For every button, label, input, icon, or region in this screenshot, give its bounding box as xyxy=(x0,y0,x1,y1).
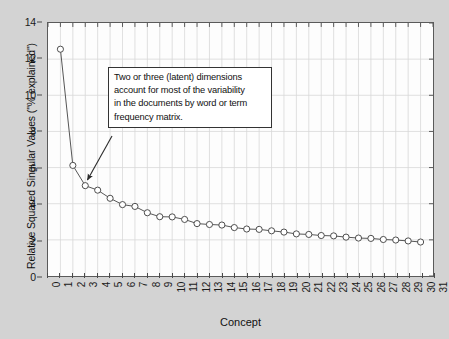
x-tick-label-17: 17 xyxy=(263,282,274,293)
x-tick-mark-20 xyxy=(297,273,298,278)
y-tick-mark-12 xyxy=(37,58,42,59)
x-tick-mark-10 xyxy=(172,273,173,278)
x-tick-mark-17 xyxy=(259,273,260,278)
x-tick-mark-18 xyxy=(272,273,273,278)
y-tick-mark-6 xyxy=(37,167,42,168)
x-tick-label-31: 31 xyxy=(438,282,449,293)
x-tick-label-12: 12 xyxy=(201,282,212,293)
data-point-marker xyxy=(132,203,138,209)
data-point-marker xyxy=(182,216,188,222)
x-tick-label-18: 18 xyxy=(276,282,287,293)
x-tick-label-9: 9 xyxy=(163,282,174,287)
annotation-textbox: Two or three (latent) dimensions account… xyxy=(108,67,272,128)
y-tick-mark-8 xyxy=(37,131,42,132)
data-point-marker xyxy=(256,226,262,232)
x-tick-mark-13 xyxy=(209,273,210,278)
x-tick-mark-1 xyxy=(59,273,60,278)
y-tick-mark-14 xyxy=(37,22,42,23)
x-tick-label-13: 13 xyxy=(213,282,224,293)
data-point-marker xyxy=(206,221,212,227)
annotation-line-2: account for most of the variability xyxy=(114,84,267,97)
data-point-marker xyxy=(57,46,63,52)
x-tick-mark-6 xyxy=(122,273,123,278)
plot-area xyxy=(47,22,434,277)
x-tick-label-16: 16 xyxy=(251,282,262,293)
x-tick-label-8: 8 xyxy=(151,282,162,287)
x-tick-mark-3 xyxy=(84,273,85,278)
x-tick-label-11: 11 xyxy=(188,282,199,292)
data-point-marker xyxy=(343,234,349,240)
x-tick-mark-0 xyxy=(47,273,48,278)
x-tick-mark-19 xyxy=(284,273,285,278)
data-point-marker xyxy=(418,239,424,245)
x-tick-mark-2 xyxy=(72,273,73,278)
x-tick-label-6: 6 xyxy=(126,282,137,287)
x-tick-label-3: 3 xyxy=(88,282,99,287)
x-tick-mark-5 xyxy=(109,273,110,278)
x-tick-label-29: 29 xyxy=(413,282,424,293)
data-point-marker xyxy=(95,187,101,193)
x-axis-title: Concept xyxy=(47,316,434,328)
x-tick-mark-26 xyxy=(372,273,373,278)
x-tick-label-26: 26 xyxy=(376,282,387,293)
x-tick-mark-4 xyxy=(97,273,98,278)
data-point-marker xyxy=(82,183,88,189)
x-tick-label-15: 15 xyxy=(238,282,249,293)
data-point-marker xyxy=(331,233,337,239)
x-tick-label-0: 0 xyxy=(51,282,62,287)
x-tick-mark-14 xyxy=(222,273,223,278)
x-tick-mark-31 xyxy=(434,273,435,278)
x-tick-label-21: 21 xyxy=(313,282,324,293)
data-point-marker xyxy=(244,226,250,232)
x-tick-mark-22 xyxy=(322,273,323,278)
x-tick-mark-12 xyxy=(197,273,198,278)
x-tick-label-10: 10 xyxy=(176,282,187,293)
x-tick-label-28: 28 xyxy=(401,282,412,293)
x-tick-label-30: 30 xyxy=(426,282,437,293)
x-tick-mark-8 xyxy=(147,273,148,278)
x-tick-mark-7 xyxy=(134,273,135,278)
x-tick-label-7: 7 xyxy=(138,282,149,287)
data-point-marker xyxy=(306,231,312,237)
data-point-marker xyxy=(318,232,324,238)
y-tick-mark-0 xyxy=(37,277,42,278)
data-point-marker xyxy=(219,222,225,228)
x-tick-label-5: 5 xyxy=(113,282,124,287)
x-tick-label-4: 4 xyxy=(101,282,112,287)
x-tick-label-22: 22 xyxy=(326,282,337,293)
x-tick-mark-23 xyxy=(334,273,335,278)
x-tick-mark-15 xyxy=(234,273,235,278)
data-series-line xyxy=(48,23,433,276)
data-point-marker xyxy=(169,214,175,220)
data-point-marker xyxy=(144,210,150,216)
x-tick-label-25: 25 xyxy=(363,282,374,293)
x-tick-label-19: 19 xyxy=(288,282,299,293)
x-tick-mark-24 xyxy=(347,273,348,278)
data-point-marker xyxy=(405,238,411,244)
x-tick-label-1: 1 xyxy=(63,282,74,287)
x-tick-mark-25 xyxy=(359,273,360,278)
data-point-marker xyxy=(393,237,399,243)
annotation-line-3: in the documents by word or term xyxy=(114,97,267,110)
x-tick-label-20: 20 xyxy=(301,282,312,293)
x-tick-mark-9 xyxy=(159,273,160,278)
x-tick-label-23: 23 xyxy=(338,282,349,293)
x-tick-label-14: 14 xyxy=(226,282,237,293)
y-tick-mark-4 xyxy=(37,204,42,205)
y-tick-mark-2 xyxy=(37,240,42,241)
data-point-marker xyxy=(355,235,361,241)
annotation-line-4: frequency matrix. xyxy=(114,111,267,124)
data-point-marker xyxy=(368,235,374,241)
data-point-marker xyxy=(380,236,386,242)
data-point-marker xyxy=(70,162,76,168)
x-tick-mark-30 xyxy=(422,273,423,278)
y-axis-title: Relative Squared Singular Values ("% exp… xyxy=(25,21,37,291)
data-point-marker xyxy=(119,202,125,208)
data-point-marker xyxy=(231,224,237,230)
data-point-marker xyxy=(194,221,200,227)
y-tick-mark-10 xyxy=(37,94,42,95)
x-tick-label-2: 2 xyxy=(76,282,87,287)
x-axis-tick-labels: 0123456789101112131415161718192021222324… xyxy=(47,278,434,314)
data-point-marker xyxy=(107,195,113,201)
